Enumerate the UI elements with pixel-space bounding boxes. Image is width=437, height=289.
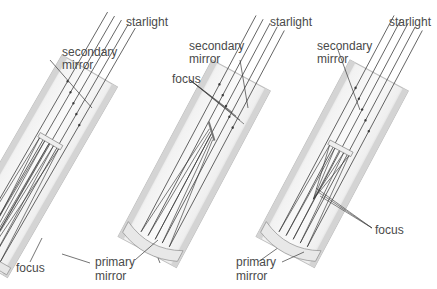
label-focus-left: focus [16, 262, 45, 274]
label-secondary-mirror-left-line2: mirror [62, 59, 93, 71]
label-primary-mirror-left-line2: mirror [95, 270, 126, 282]
label-secondary-mirror-middle-line2: mirror [189, 53, 220, 65]
label-primary-mirror-left-line1: primary [95, 256, 135, 268]
label-focus-middle: focus [172, 73, 201, 85]
label-starlight-right: starlight [389, 16, 431, 28]
label-focus-right: focus [375, 224, 404, 236]
label-starlight-left: starlight [126, 16, 168, 28]
label-primary-mirror-middle-line1: primary [236, 256, 276, 268]
label-starlight-middle: starlight [270, 16, 312, 28]
label-secondary-mirror-middle-line1: secondary [189, 40, 244, 52]
label-primary-mirror-middle-line2: mirror [236, 270, 267, 282]
tube-body [0, 55, 117, 278]
label-secondary-mirror-right-line2: mirror [317, 53, 348, 65]
label-secondary-mirror-left-line1: secondary [62, 46, 117, 58]
label-secondary-mirror-right-line1: secondary [317, 40, 372, 52]
